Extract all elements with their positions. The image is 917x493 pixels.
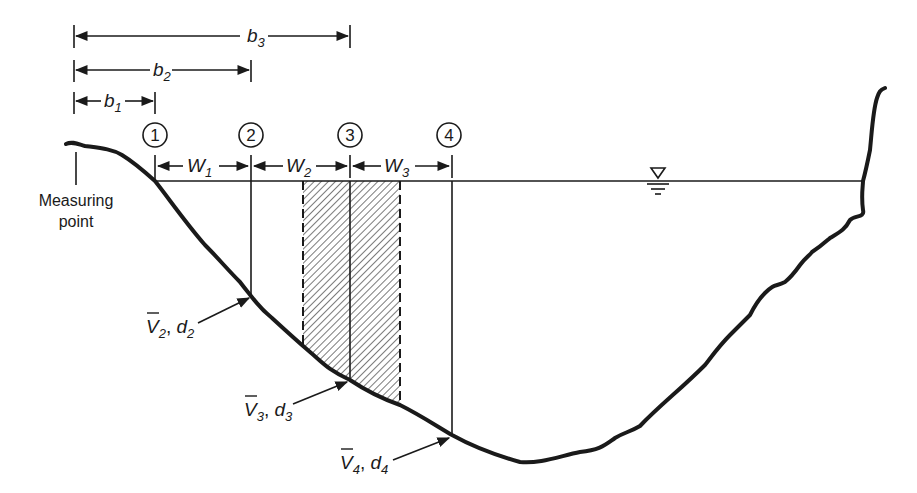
svg-text:V3, d3: V3, d3 <box>244 399 293 424</box>
svg-text:V4, d4: V4, d4 <box>340 452 388 477</box>
station-markers: 1 2 3 4 <box>143 123 461 147</box>
svg-text:V2, d2: V2, d2 <box>146 316 195 341</box>
channel-bed-profile <box>66 88 885 462</box>
w3-label: W3 <box>384 155 410 180</box>
w1-label: W1 <box>187 155 212 180</box>
station-4-label: 4 <box>444 126 453 145</box>
cross-section-diagram: Measuring point b3 b2 b1 1 2 3 4 <box>0 0 917 493</box>
v4-d4-label: V4, d4 <box>340 449 388 477</box>
measuring-point-label-line2: point <box>59 213 94 230</box>
hatched-subsection <box>303 181 400 405</box>
station-3-label: 3 <box>345 126 354 145</box>
v2-d2-label: V2, d2 <box>146 313 195 341</box>
station-1-label: 1 <box>150 126 159 145</box>
b1-label: b1 <box>104 90 122 115</box>
b2-label: b2 <box>153 59 172 84</box>
w2-label: W2 <box>286 155 312 180</box>
b3-label: b3 <box>247 25 266 50</box>
measuring-point-label-line1: Measuring <box>39 192 114 209</box>
station-2-label: 2 <box>246 126 255 145</box>
v3-d3-label: V3, d3 <box>244 396 293 424</box>
